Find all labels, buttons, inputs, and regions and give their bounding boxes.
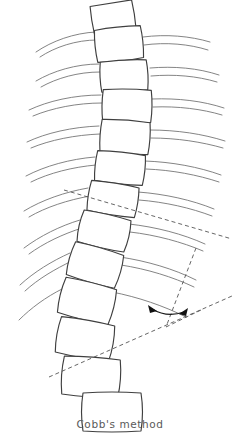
vertebra-body [99,118,151,155]
figure-caption: Cobb's method [0,418,240,430]
cobb-method-figure [0,0,240,439]
vertebra-body [99,59,149,93]
cobb-angle-arc [148,305,188,316]
vertebra-body [93,25,144,64]
vertebra-body [102,89,153,124]
upper-perpendicular [166,248,196,327]
vertebral-bodies [54,0,153,432]
spine-illustration [0,0,240,439]
